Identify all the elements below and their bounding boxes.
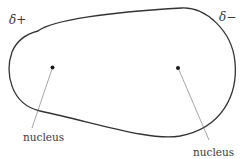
nucleus-right-dot — [176, 66, 180, 70]
electron-cloud-outline — [9, 8, 235, 137]
nucleus-right-leader — [179, 70, 209, 140]
delta-minus-label: δ− — [219, 10, 236, 24]
polar-molecule-diagram: δ+ δ− nucleus nucleus — [0, 0, 244, 159]
delta-plus-label: δ+ — [9, 13, 26, 27]
nucleus-left-dot — [51, 66, 55, 70]
nucleus-left-leader — [32, 69, 52, 128]
nucleus-left-label: nucleus — [23, 131, 64, 143]
nucleus-right-label: nucleus — [193, 146, 234, 158]
